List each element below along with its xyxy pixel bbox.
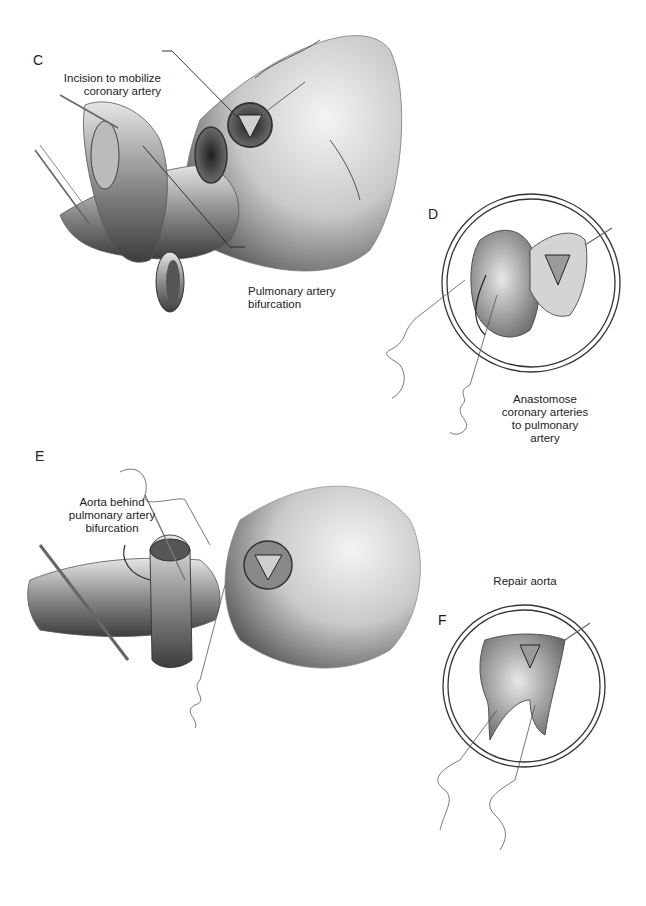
surgical-illustration: [0, 0, 646, 906]
caption-line: bifurcation: [52, 522, 172, 535]
caption-incision-coronary: Incision to mobilize coronary artery: [60, 72, 161, 98]
caption-line: artery: [480, 432, 610, 445]
caption-line: Anastomose: [480, 393, 610, 406]
panel-f-drawing: [438, 605, 605, 850]
caption-line: pulmonary artery: [52, 509, 172, 522]
caption-line: coronary arteries: [480, 406, 610, 419]
caption-aorta-behind-pa: Aorta behind pulmonary artery bifurcatio…: [52, 496, 172, 535]
caption-line: to pulmonary: [480, 419, 610, 432]
caption-line: Incision to mobilize: [60, 72, 161, 85]
panel-label-d: D: [428, 206, 438, 222]
caption-line: bifurcation: [248, 298, 378, 311]
caption-anastomose-coronary: Anastomose coronary arteries to pulmonar…: [480, 393, 610, 445]
caption-repair-aorta: Repair aorta: [475, 575, 575, 588]
caption-line: Repair aorta: [475, 575, 575, 588]
panel-label-c: C: [33, 52, 43, 68]
caption-line: Aorta behind: [52, 496, 172, 509]
caption-pulmonary-bifurcation: Pulmonary artery bifurcation: [248, 285, 378, 311]
panel-label-f: F: [438, 612, 447, 628]
caption-line: Pulmonary artery: [248, 285, 378, 298]
panel-label-e: E: [35, 448, 44, 464]
caption-line: coronary artery: [60, 85, 161, 98]
